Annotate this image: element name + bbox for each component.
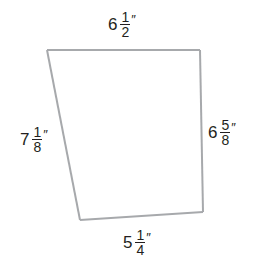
label-left-denominator: 8 xyxy=(32,140,42,154)
label-top-whole: 6 xyxy=(108,15,117,35)
side-left xyxy=(47,50,80,220)
label-top-unit: ″ xyxy=(131,12,136,27)
side-bottom xyxy=(80,212,203,220)
label-left-fraction: 1 8 xyxy=(32,125,42,154)
label-left-unit: ″ xyxy=(43,127,48,142)
label-right-fraction: 5 8 xyxy=(220,118,230,147)
label-right-denominator: 8 xyxy=(220,133,230,147)
label-right-side: 6 5 8 ″ xyxy=(208,118,236,147)
label-bottom-side: 5 1 4 ″ xyxy=(123,228,151,257)
label-bottom-whole: 5 xyxy=(123,233,132,253)
label-top-side: 6 1 2 ″ xyxy=(108,10,136,39)
label-left-numerator: 1 xyxy=(32,125,42,140)
label-bottom-fraction: 1 4 xyxy=(135,228,145,257)
label-top-fraction: 1 2 xyxy=(120,10,130,39)
side-right xyxy=(200,50,203,212)
label-left-side: 7 1 8 ″ xyxy=(20,125,48,154)
label-top-numerator: 1 xyxy=(120,10,130,25)
label-bottom-numerator: 1 xyxy=(135,228,145,243)
label-bottom-denominator: 4 xyxy=(135,243,145,257)
label-bottom-unit: ″ xyxy=(146,230,151,245)
label-right-whole: 6 xyxy=(208,123,217,143)
label-top-denominator: 2 xyxy=(120,25,130,39)
label-left-whole: 7 xyxy=(20,130,29,150)
label-right-unit: ″ xyxy=(231,120,236,135)
label-right-numerator: 5 xyxy=(220,118,230,133)
